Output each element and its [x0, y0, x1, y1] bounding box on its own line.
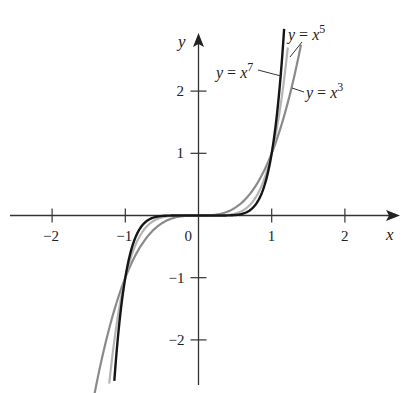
- power-functions-chart: −2−1012−2−112 x y y = x7y = x5y = x3: [0, 0, 402, 393]
- x-tick-label: 2: [341, 228, 349, 244]
- y-axis-label: y: [176, 32, 186, 51]
- y-tick-label: −1: [169, 270, 185, 286]
- x-tick-label: −2: [43, 228, 59, 244]
- curve-label-x5: y = x5: [286, 22, 325, 44]
- y-tick-label: 1: [177, 145, 185, 161]
- x-tick-label: 0: [185, 228, 193, 244]
- y-tick-label: 2: [177, 83, 185, 99]
- leader-line: [258, 70, 281, 76]
- curve-x7: [114, 29, 284, 381]
- y-tick-label: −2: [169, 332, 185, 348]
- curve-label-x3: y = x3: [304, 80, 343, 102]
- x-tick-label: −1: [116, 228, 132, 244]
- curve-label-x7: y = x7: [214, 60, 253, 82]
- x-axis-label: x: [385, 225, 394, 244]
- x-tick-label: 1: [268, 228, 276, 244]
- leader-line: [292, 88, 304, 92]
